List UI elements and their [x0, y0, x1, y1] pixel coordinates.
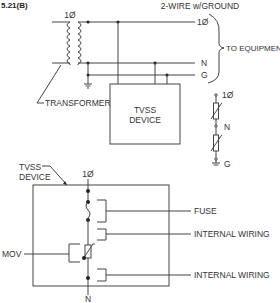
tvss-device-label-1: TVSS — [19, 162, 42, 172]
schematic-ground-label: G — [224, 159, 231, 169]
fuse-callout: FUSE — [194, 206, 217, 216]
mov-label: MOV — [2, 249, 22, 259]
tvss-box-label-1: TVSS — [134, 105, 157, 115]
figure-label: 5.21(B) — [1, 1, 28, 10]
to-equipment-label: TO EQUIPMENT — [226, 44, 280, 53]
internal-wiring-callout-2: INTERNAL WIRING — [194, 270, 270, 280]
top-diagram: 2-WIRE w/GROUND 1Ø — [37, 1, 280, 144]
transformer-label: TRANSFORMER — [45, 98, 111, 108]
top-terminal-label: 1Ø — [82, 169, 94, 179]
bottom-terminal-label: N — [85, 294, 91, 303]
brace-icon — [208, 14, 224, 83]
ground-line-label: G — [201, 70, 208, 80]
mov-schematic-symbol: 1Ø N G — [211, 90, 234, 169]
schematic-neutral-label: N — [224, 122, 230, 132]
transformer-icon — [52, 22, 88, 65]
bottom-diagram: TVSS DEVICE 1Ø N MOV FUSE INT — [2, 162, 270, 303]
tvss-device-label-2: DEVICE — [19, 172, 51, 182]
tvss-box-label-2: DEVICE — [129, 115, 161, 125]
transformer-phase-label: 1Ø — [64, 10, 76, 20]
wiring-title: 2-WIRE w/GROUND — [161, 1, 239, 11]
neutral-line-label: N — [201, 58, 207, 68]
fuse-icon — [86, 202, 90, 218]
internal-wiring-callout-1: INTERNAL WIRING — [194, 229, 270, 239]
schematic-phase-label: 1Ø — [222, 90, 234, 100]
tvss-wiring-diagram: 5.21(B) 2-WIRE w/GROUND 1Ø — [0, 0, 280, 303]
phase-line-label: 1Ø — [197, 17, 209, 27]
